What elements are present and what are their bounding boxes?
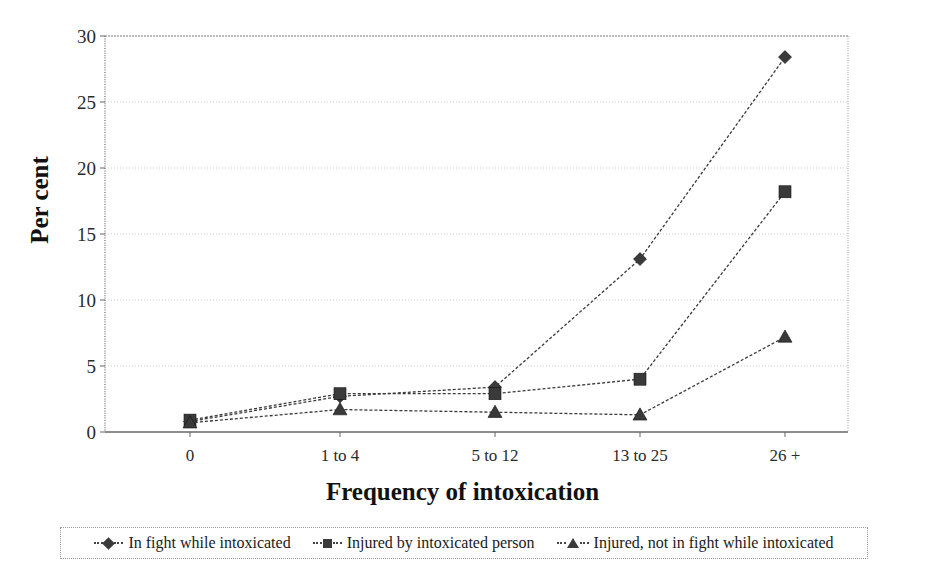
legend-label-in-fight: In fight while intoxicated: [128, 534, 290, 552]
legend-item-injured-by[interactable]: Injured by intoxicated person: [313, 534, 535, 552]
x-tick-label-1: 1 to 4: [321, 446, 360, 466]
x-tick-label-3: 13 to 25: [612, 446, 668, 466]
legend-item-in-fight[interactable]: In fight while intoxicated: [94, 534, 290, 552]
legend-label-injured-by: Injured by intoxicated person: [347, 534, 535, 552]
chart-container: Per cent 30 25 20 15 10 5 0 0 1 to 4 5 t…: [0, 0, 925, 578]
chart-legend: In fight while intoxicated Injured by in…: [60, 527, 868, 559]
legend-sample-square: [313, 539, 342, 548]
y-tick-label-5: 5: [50, 357, 96, 376]
legend-sample-diamond: [94, 539, 123, 548]
y-tick-label-20: 20: [50, 159, 96, 178]
y-axis-title: Per cent: [26, 120, 54, 280]
x-tick-label-4: 26 +: [770, 446, 801, 466]
y-tick-label-10: 10: [50, 291, 96, 310]
y-tick-label-15: 15: [50, 225, 96, 244]
diamond-icon: [103, 537, 116, 550]
square-icon: [323, 539, 332, 548]
legend-sample-triangle: [557, 538, 589, 548]
y-tick-label-30: 30: [50, 27, 96, 46]
legend-label-injured-not-fight: Injured, not in fight while intoxicated: [594, 534, 834, 552]
triangle-icon: [567, 538, 579, 548]
plot-area: Per cent 30 25 20 15 10 5 0 0 1 to 4 5 t…: [0, 0, 925, 500]
x-axis-title: Frequency of intoxication: [0, 478, 925, 506]
y-tick-label-0: 0: [50, 423, 96, 442]
y-tick-label-25: 25: [50, 93, 96, 112]
chart-svg: [0, 0, 925, 470]
legend-item-injured-not-fight[interactable]: Injured, not in fight while intoxicated: [557, 534, 834, 552]
x-tick-label-2: 5 to 12: [471, 446, 518, 466]
x-tick-label-0: 0: [186, 446, 195, 466]
